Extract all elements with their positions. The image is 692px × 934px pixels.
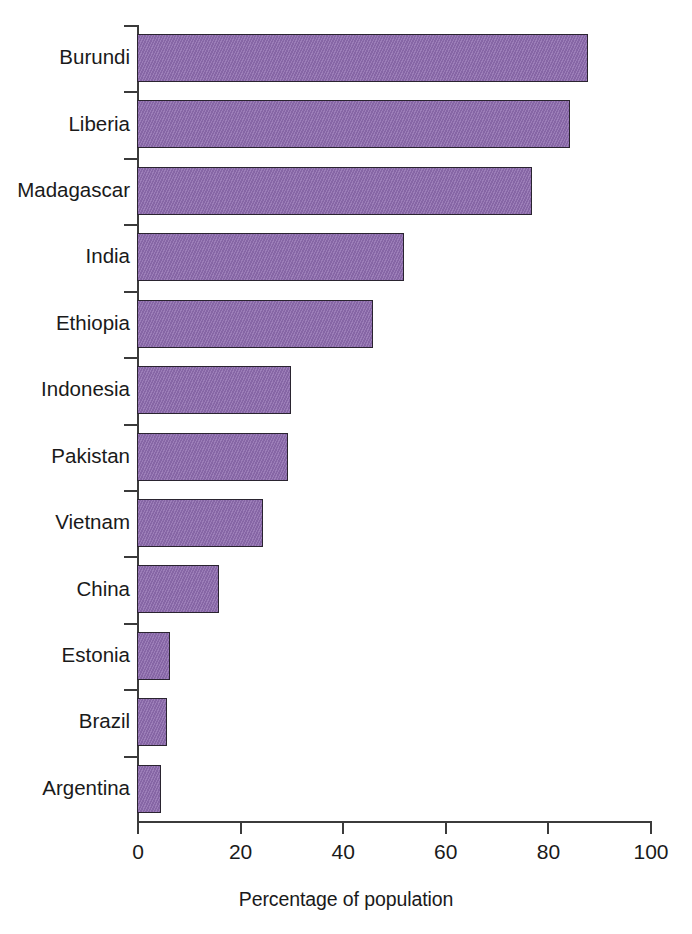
bar-liberia (137, 100, 570, 148)
y-tick-mark (124, 25, 138, 27)
y-tick-mark (124, 490, 138, 492)
bar-row (137, 424, 650, 490)
bar-row (137, 623, 650, 689)
y-axis-label-china: China (0, 577, 130, 601)
bar-row (137, 357, 650, 423)
x-axis-title: Percentage of population (0, 888, 692, 911)
y-tick-mark (124, 91, 138, 93)
bar-row (137, 689, 650, 755)
y-tick-mark (124, 291, 138, 293)
y-tick-mark (124, 357, 138, 359)
y-tick-mark (124, 224, 138, 226)
x-tick-label-40: 40 (332, 840, 355, 864)
bar-estonia (137, 632, 170, 680)
bar-pakistan (137, 433, 288, 481)
x-tick-label-0: 0 (132, 840, 144, 864)
x-tick-mark (547, 821, 549, 834)
y-axis-label-ethiopia: Ethiopia (0, 311, 130, 335)
y-tick-mark (124, 556, 138, 558)
y-tick-mark (124, 158, 138, 160)
y-axis-label-liberia: Liberia (0, 112, 130, 136)
y-axis-label-estonia: Estonia (0, 643, 130, 667)
plot-area (137, 25, 650, 822)
x-tick-mark (650, 821, 652, 834)
y-axis-label-brazil: Brazil (0, 709, 130, 733)
x-tick-label-20: 20 (229, 840, 252, 864)
bar-row (137, 91, 650, 157)
bar-row (137, 490, 650, 556)
bar-row (137, 291, 650, 357)
bar-row (137, 25, 650, 91)
bar-vietnam (137, 499, 263, 547)
y-tick-mark (124, 689, 138, 691)
x-tick-mark (240, 821, 242, 834)
bar-ethiopia (137, 300, 373, 348)
bar-india (137, 233, 404, 281)
y-axis-label-argentina: Argentina (0, 776, 130, 800)
x-tick-mark (342, 821, 344, 834)
y-axis-label-india: India (0, 244, 130, 268)
bar-chart: BurundiLiberiaMadagascarIndiaEthiopiaInd… (0, 0, 692, 934)
x-tick-label-80: 80 (537, 840, 560, 864)
x-tick-mark (445, 821, 447, 834)
x-tick-label-100: 100 (633, 840, 668, 864)
y-tick-mark (124, 756, 138, 758)
bar-row (137, 556, 650, 622)
x-tick-label-60: 60 (434, 840, 457, 864)
y-axis-label-vietnam: Vietnam (0, 510, 130, 534)
y-axis-label-burundi: Burundi (0, 45, 130, 69)
y-tick-mark (124, 623, 138, 625)
bar-madagascar (137, 167, 532, 215)
bar-argentina (137, 765, 161, 813)
y-axis-label-indonesia: Indonesia (0, 377, 130, 401)
y-tick-mark (124, 424, 138, 426)
y-axis-label-madagascar: Madagascar (0, 178, 130, 202)
bar-row (137, 756, 650, 822)
bar-brazil (137, 698, 167, 746)
bar-row (137, 158, 650, 224)
bar-indonesia (137, 366, 291, 414)
y-axis-label-pakistan: Pakistan (0, 444, 130, 468)
x-tick-mark (137, 821, 139, 834)
bar-row (137, 224, 650, 290)
bar-china (137, 565, 219, 613)
bar-burundi (137, 34, 588, 82)
